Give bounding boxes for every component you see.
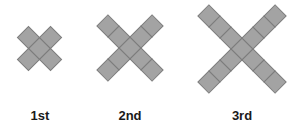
figure-2nd: [97, 15, 163, 81]
figure-label-2nd: 2nd: [118, 108, 141, 123]
figure-1st: [17, 26, 61, 70]
figure-label-3rd: 3rd: [232, 108, 252, 123]
figure-label-1st: 1st: [31, 108, 50, 123]
figure-3rd: [198, 5, 286, 93]
